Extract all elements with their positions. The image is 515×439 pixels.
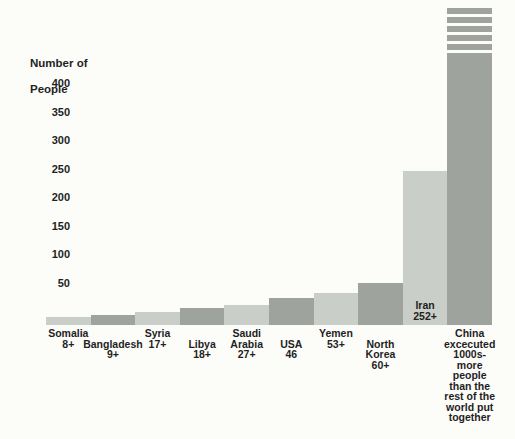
label-line: Korea [345,349,416,360]
label-line: Saudi [211,328,282,339]
bar-yemen [314,293,359,325]
y-tick-400: 400 [28,77,70,89]
label-line: together [434,412,505,423]
executions-bar-chart: Number of People 40035030025020015010050… [0,0,515,439]
bar-china [447,53,492,325]
bar-saudi-arabia [224,305,269,325]
label-line: people [434,370,505,381]
y-tick-50: 50 [28,277,70,289]
label-line: rest of the [434,391,505,402]
y-tick-200: 200 [28,191,70,203]
y-tick-150: 150 [28,220,70,232]
bar-libya [180,308,225,325]
china-overflow-stripe [447,17,492,23]
label-line: 60+ [345,360,416,371]
bar-syria [135,312,180,325]
label-china: Chinaexcecuted1000s-morepeoplethan there… [434,328,505,423]
china-overflow-stripe [447,8,492,14]
label-line: Syria [122,328,193,339]
bar-somalia [46,317,91,325]
y-tick-350: 350 [28,106,70,118]
label-line: 9+ [78,349,149,360]
label-line: Yemen [301,328,372,339]
y-tick-100: 100 [28,248,70,260]
china-overflow-stripe [447,44,492,50]
label-line: 46 [256,349,327,360]
label-north-korea: NorthKorea60+ [345,339,416,371]
label-line: Somalia [33,328,104,339]
bar-usa [269,298,314,325]
y-axis-title-line1: Number of [30,57,88,69]
label-line: China [434,328,505,339]
china-overflow-stripe [447,26,492,32]
y-tick-250: 250 [28,163,70,175]
china-overflow-stripe [447,35,492,41]
bar-bangladesh [91,315,136,325]
y-tick-300: 300 [28,134,70,146]
label-line: 1000s- [434,349,505,360]
